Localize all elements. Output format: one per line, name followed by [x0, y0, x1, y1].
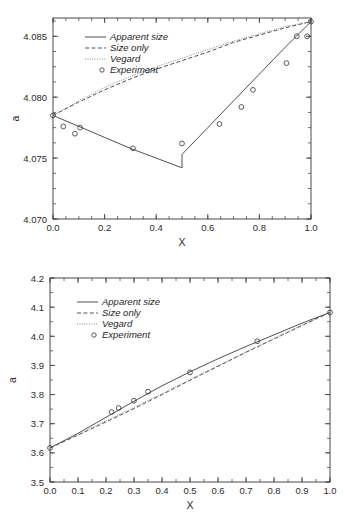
legend-label: Experiment	[102, 329, 150, 340]
data-point	[239, 105, 244, 110]
x-tick-label: 0.0	[43, 485, 56, 496]
x-tick-label: 1.0	[323, 485, 336, 496]
legend-marker-circle	[92, 333, 96, 337]
x-tick-label: 0.6	[201, 222, 214, 233]
figure-container: 0.00.20.40.60.81.04.0704.0754.0804.085Xa…	[0, 0, 344, 527]
y-tick-label: 4.075	[23, 153, 47, 164]
data-point	[180, 141, 185, 146]
y-tick-label: 4.1	[31, 302, 44, 313]
x-tick-label: 0.7	[239, 485, 252, 496]
y-tick-label: 4.0	[31, 331, 44, 342]
legend-label: Vegard	[110, 53, 141, 64]
data-point	[284, 61, 289, 66]
chart-top-svg: 0.00.20.40.60.81.04.0704.0754.0804.085Xa…	[0, 0, 344, 260]
y-tick-label: 3.6	[31, 447, 44, 458]
legend-label: Size only	[102, 307, 142, 318]
data-point	[217, 122, 222, 127]
x-tick-label: 0.3	[127, 485, 140, 496]
x-tick-label: 1.0	[304, 222, 317, 233]
y-tick-label: 3.9	[31, 360, 44, 371]
legend-label: Size only	[110, 42, 150, 53]
x-tick-label: 0.8	[267, 485, 280, 496]
x-tick-label: 0.8	[253, 222, 266, 233]
y-axis-label: a	[9, 115, 21, 121]
series-line-dashed	[50, 312, 330, 448]
legend-label: Apparent size	[101, 296, 160, 307]
x-tick-label: 0.1	[71, 485, 84, 496]
legend-label: Experiment	[110, 64, 158, 75]
y-tick-label: 4.070	[23, 214, 47, 225]
x-tick-label: 0.5	[183, 485, 196, 496]
data-point	[61, 124, 66, 129]
x-tick-label: 0.6	[211, 485, 224, 496]
x-tick-label: 0.4	[150, 222, 163, 233]
series-line-dotted	[53, 22, 311, 116]
chart-bottom-svg: 0.00.10.20.30.40.50.60.70.80.91.03.53.63…	[0, 260, 344, 527]
chart-panel-top: 0.00.20.40.60.81.04.0704.0754.0804.085Xa…	[0, 0, 344, 260]
legend-label: Vegard	[102, 318, 133, 329]
y-axis-label: a	[6, 377, 18, 383]
x-tick-label: 0.2	[99, 485, 112, 496]
data-point	[73, 131, 78, 136]
series-line-dashed	[53, 22, 311, 116]
y-tick-label: 3.7	[31, 418, 44, 429]
x-tick-label: 0.2	[98, 222, 111, 233]
legend-marker-circle	[100, 68, 104, 72]
y-tick-label: 3.5	[31, 477, 44, 488]
y-tick-label: 4.2	[31, 273, 44, 284]
legend-label: Apparent size	[109, 31, 168, 42]
x-tick-label: 0.0	[46, 222, 59, 233]
x-axis-label: X	[178, 236, 185, 248]
y-tick-label: 3.8	[31, 389, 44, 400]
chart-panel-bottom: 0.00.10.20.30.40.50.60.70.80.91.03.53.63…	[0, 260, 344, 527]
y-tick-label: 4.085	[23, 31, 47, 42]
x-axis-label: X	[186, 499, 193, 511]
x-tick-label: 0.9	[295, 485, 308, 496]
y-tick-label: 4.080	[23, 92, 47, 103]
data-point	[251, 87, 256, 92]
x-tick-label: 0.4	[155, 485, 168, 496]
